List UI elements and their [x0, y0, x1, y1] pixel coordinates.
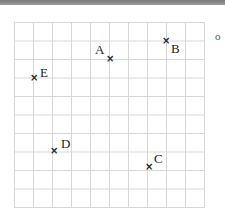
- point-marker-e: ×: [30, 73, 38, 83]
- point-marker-c: ×: [145, 162, 153, 172]
- point-label-d: D: [61, 137, 70, 150]
- point-label-c: C: [154, 152, 163, 165]
- point-marker-b: ×: [162, 36, 170, 46]
- point-label-e: E: [40, 66, 48, 79]
- point-label-a: A: [95, 43, 104, 56]
- top-bar: [0, 0, 225, 5]
- corner-glyph: o: [215, 30, 221, 42]
- point-label-b: B: [171, 42, 180, 55]
- point-marker-d: ×: [50, 146, 58, 156]
- point-marker-a: ×: [106, 54, 114, 64]
